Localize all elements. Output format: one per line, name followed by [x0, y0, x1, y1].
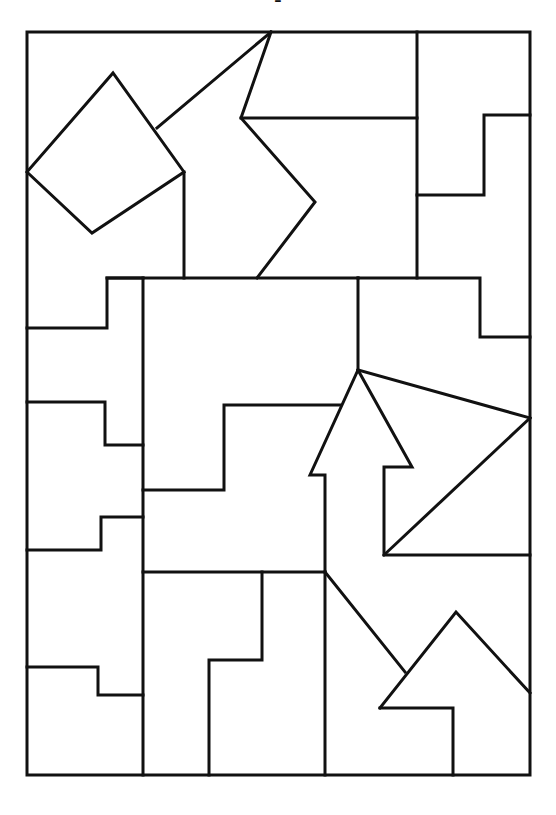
puzzle-edge: [27, 278, 143, 328]
puzzle-edge: [27, 73, 184, 233]
puzzle-edge: [417, 115, 530, 195]
puzzle-edge: [380, 708, 453, 775]
puzzle-edge: [27, 402, 143, 445]
puzzle-edge: [27, 667, 143, 695]
puzzle-edge: [384, 418, 530, 555]
puzzle-edge: [241, 32, 315, 278]
puzzle-edge: [358, 370, 530, 555]
puzzle-diagram: [0, 0, 556, 815]
puzzle-edge: [380, 612, 530, 708]
puzzle-edge: [27, 517, 143, 550]
puzzle-edge: [209, 572, 262, 775]
puzzle-edge: [325, 572, 405, 672]
puzzle-edge: [143, 405, 340, 490]
puzzle-edge: [358, 370, 530, 418]
puzzle-edge: [358, 278, 530, 337]
puzzle-edge: [310, 370, 358, 572]
